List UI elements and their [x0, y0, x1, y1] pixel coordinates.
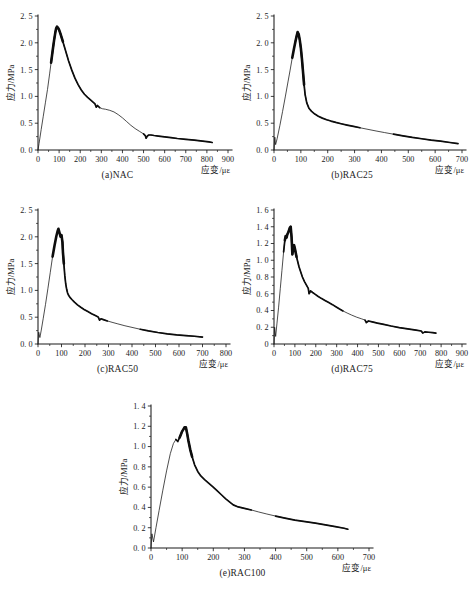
- svg-text:600: 600: [332, 553, 344, 562]
- svg-text:2. 0: 2. 0: [20, 233, 32, 242]
- svg-text:0. 0: 0. 0: [256, 146, 268, 155]
- svg-text:1. 0: 1. 0: [133, 442, 145, 451]
- svg-text:0. 5: 0. 5: [256, 119, 268, 128]
- svg-text:1. 5: 1. 5: [256, 66, 268, 75]
- chart-panel-rac75: 010020030040050060070080090000. 20. 40. …: [234, 196, 470, 386]
- svg-text:0. 4: 0. 4: [256, 306, 268, 315]
- chart-svg-rac25: 01002003004005006007000. 00. 51. 01. 52.…: [234, 2, 470, 174]
- svg-text:应力/MPa: 应力/MPa: [118, 459, 129, 496]
- chart-panel-rac50: 01002003004005006007008000. 00. 51. 01. …: [0, 196, 235, 386]
- svg-text:500: 500: [137, 155, 149, 164]
- svg-text:400: 400: [116, 155, 128, 164]
- svg-text:2. 0: 2. 0: [20, 39, 32, 48]
- svg-text:700: 700: [196, 349, 208, 358]
- chart-svg-rac50: 01002003004005006007008000. 00. 51. 01. …: [0, 196, 235, 368]
- svg-text:500: 500: [402, 155, 414, 164]
- svg-text:300: 300: [102, 349, 114, 358]
- svg-text:600: 600: [159, 155, 171, 164]
- svg-text:0. 4: 0. 4: [133, 503, 145, 512]
- panel-caption-rac50: (c)RAC50: [0, 364, 235, 374]
- svg-text:200: 200: [79, 349, 91, 358]
- svg-text:600: 600: [393, 349, 405, 358]
- chart-panel-rac100: 01002003004005006007000. 00. 20. 40. 60.…: [105, 392, 380, 592]
- svg-text:0. 0: 0. 0: [20, 146, 32, 155]
- svg-text:300: 300: [95, 155, 107, 164]
- panel-caption-rac75: (d)RAC75: [234, 364, 470, 374]
- svg-text:1. 0: 1. 0: [20, 92, 32, 101]
- svg-text:2. 0: 2. 0: [256, 39, 268, 48]
- svg-text:600: 600: [173, 349, 185, 358]
- svg-text:0. 6: 0. 6: [133, 483, 145, 492]
- svg-text:100: 100: [53, 155, 65, 164]
- svg-text:0. 0: 0. 0: [20, 340, 32, 349]
- svg-text:1. 4: 1. 4: [133, 402, 145, 411]
- svg-text:0. 2: 0. 2: [256, 323, 268, 332]
- svg-text:700: 700: [363, 553, 375, 562]
- svg-text:800: 800: [220, 349, 232, 358]
- svg-text:900: 900: [456, 349, 468, 358]
- svg-text:600: 600: [429, 155, 441, 164]
- svg-text:0. 2: 0. 2: [133, 524, 145, 533]
- svg-text:800: 800: [201, 155, 213, 164]
- svg-text:0. 5: 0. 5: [20, 119, 32, 128]
- svg-text:300: 300: [331, 349, 343, 358]
- svg-text:300: 300: [238, 553, 250, 562]
- svg-text:900: 900: [222, 155, 234, 164]
- svg-text:0: 0: [149, 553, 153, 562]
- panel-caption-nac: (a)NAC: [0, 170, 235, 180]
- panel-caption-rac25: (b)RAC25: [234, 170, 470, 180]
- svg-text:1. 5: 1. 5: [20, 66, 32, 75]
- svg-text:100: 100: [55, 349, 67, 358]
- svg-text:0. 5: 0. 5: [20, 313, 32, 322]
- svg-text:0. 6: 0. 6: [256, 290, 268, 299]
- svg-text:1. 2: 1. 2: [133, 422, 145, 431]
- svg-text:700: 700: [180, 155, 192, 164]
- chart-panel-rac25: 01002003004005006007000. 00. 51. 01. 52.…: [234, 2, 470, 192]
- svg-text:400: 400: [375, 155, 387, 164]
- svg-text:400: 400: [351, 349, 363, 358]
- svg-text:100: 100: [289, 349, 301, 358]
- svg-text:应力/MPa: 应力/MPa: [5, 65, 16, 102]
- svg-text:800: 800: [435, 349, 447, 358]
- chart-svg-nac: 01002003004005006007008009000. 00. 51. 0…: [0, 2, 235, 174]
- svg-text:0. 0: 0. 0: [133, 544, 145, 553]
- svg-text:0: 0: [36, 349, 40, 358]
- svg-text:1. 6: 1. 6: [256, 206, 268, 215]
- svg-text:0. 8: 0. 8: [256, 273, 268, 282]
- svg-text:200: 200: [207, 553, 219, 562]
- figure-sheet: 01002003004005006007008009000. 00. 51. 0…: [0, 0, 470, 600]
- svg-text:应力/MPa: 应力/MPa: [5, 259, 16, 296]
- chart-svg-rac75: 010020030040050060070080090000. 20. 40. …: [234, 196, 470, 368]
- svg-text:500: 500: [372, 349, 384, 358]
- svg-text:300: 300: [348, 155, 360, 164]
- svg-text:100: 100: [295, 155, 307, 164]
- svg-text:1. 4: 1. 4: [256, 223, 268, 232]
- svg-text:400: 400: [126, 349, 138, 358]
- svg-text:700: 700: [414, 349, 426, 358]
- panel-caption-rac100: (e)RAC100: [105, 568, 380, 578]
- svg-text:100: 100: [176, 553, 188, 562]
- svg-text:500: 500: [149, 349, 161, 358]
- svg-text:2. 5: 2. 5: [256, 12, 268, 21]
- svg-text:应力/MPa: 应力/MPa: [241, 65, 252, 102]
- svg-text:500: 500: [301, 553, 313, 562]
- svg-text:1. 2: 1. 2: [256, 239, 268, 248]
- svg-text:应力/MPa: 应力/MPa: [241, 259, 252, 296]
- svg-text:1. 0: 1. 0: [256, 256, 268, 265]
- svg-text:1. 0: 1. 0: [256, 92, 268, 101]
- svg-text:2. 5: 2. 5: [20, 206, 32, 215]
- svg-text:0: 0: [272, 155, 276, 164]
- svg-text:200: 200: [310, 349, 322, 358]
- svg-text:0. 8: 0. 8: [133, 463, 145, 472]
- svg-text:0: 0: [272, 349, 276, 358]
- svg-text:200: 200: [322, 155, 334, 164]
- chart-svg-rac100: 01002003004005006007000. 00. 20. 40. 60.…: [105, 392, 380, 572]
- svg-text:2. 5: 2. 5: [20, 12, 32, 21]
- svg-text:1. 5: 1. 5: [20, 260, 32, 269]
- svg-text:700: 700: [456, 155, 468, 164]
- chart-panel-nac: 01002003004005006007008009000. 00. 51. 0…: [0, 2, 235, 192]
- svg-text:0: 0: [264, 340, 268, 349]
- svg-text:1. 0: 1. 0: [20, 286, 32, 295]
- svg-text:400: 400: [269, 553, 281, 562]
- svg-text:200: 200: [74, 155, 86, 164]
